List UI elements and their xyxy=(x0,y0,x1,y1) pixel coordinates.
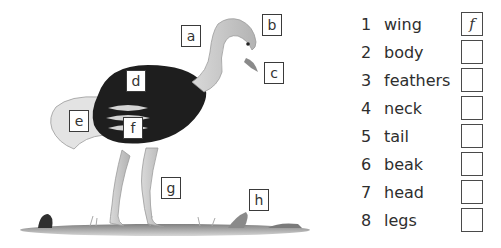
neck xyxy=(192,19,256,92)
item-number: 8 xyxy=(361,211,371,230)
label-box-b: b xyxy=(262,14,282,36)
list-item: 6beak xyxy=(355,152,495,178)
ostrich-illustration xyxy=(0,0,340,248)
list-item: 4neck xyxy=(355,96,495,122)
item-number: 7 xyxy=(361,183,371,202)
item-word: neck xyxy=(384,99,422,118)
item-number: 5 xyxy=(361,127,371,146)
label-box-f: f xyxy=(123,117,143,139)
label-box-c: c xyxy=(264,62,284,84)
answer-box[interactable] xyxy=(461,68,483,92)
item-word: body xyxy=(384,43,424,62)
item-number: 6 xyxy=(361,155,371,174)
item-number: 4 xyxy=(361,99,371,118)
item-number: 2 xyxy=(361,43,371,62)
answer-box[interactable] xyxy=(461,124,483,148)
answer-box[interactable] xyxy=(461,152,483,176)
label-box-a: a xyxy=(181,25,201,47)
beak xyxy=(244,58,258,72)
eye xyxy=(246,42,250,46)
item-word: tail xyxy=(384,127,409,146)
label-box-g: g xyxy=(161,177,181,199)
ground xyxy=(20,212,310,236)
list-item: 3feathers xyxy=(355,68,495,94)
body xyxy=(93,65,207,144)
answer-box[interactable]: f xyxy=(461,12,483,36)
item-word: wing xyxy=(384,15,422,34)
item-word: beak xyxy=(384,155,423,174)
label-box-h: h xyxy=(249,189,269,211)
item-number: 3 xyxy=(361,71,371,90)
list-item: 8legs xyxy=(355,208,495,234)
list-item: 2body xyxy=(355,40,495,66)
label-box-d: d xyxy=(126,70,146,92)
answer-box[interactable] xyxy=(461,96,483,120)
answer-box[interactable] xyxy=(461,208,483,232)
item-word: legs xyxy=(384,211,417,230)
legs xyxy=(110,148,164,227)
answer-box[interactable] xyxy=(461,180,483,204)
list-item: 5tail xyxy=(355,124,495,150)
list-item: 7head xyxy=(355,180,495,206)
item-word: feathers xyxy=(384,71,450,90)
answer-box[interactable] xyxy=(461,40,483,64)
item-number: 1 xyxy=(361,15,371,34)
label-box-e: e xyxy=(69,110,89,132)
list-item: 1wingf xyxy=(355,12,495,38)
item-word: head xyxy=(384,183,424,202)
